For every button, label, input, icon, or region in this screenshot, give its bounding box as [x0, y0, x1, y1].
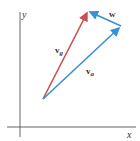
y-axis-label: y: [21, 9, 27, 20]
diagram-svg: y x vg va w: [0, 0, 140, 141]
vector-v-a-label: va: [86, 66, 95, 78]
x-axis-label: x: [126, 129, 132, 140]
vector-v-g-label: vg: [55, 45, 64, 57]
vector-w-label: w: [109, 9, 116, 19]
vector-w: [90, 12, 121, 26]
vector-v-a: [43, 28, 119, 99]
vector-v-g: [43, 13, 87, 99]
vector-diagram: y x vg va w: [0, 0, 140, 141]
